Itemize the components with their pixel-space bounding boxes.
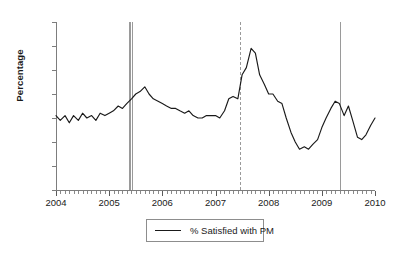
x-tick-minor: [278, 191, 279, 194]
x-tick-label: 2007: [196, 198, 236, 208]
x-tick-minor: [83, 191, 84, 194]
chart-figure: Percentage 010203040506070 2004200520062…: [0, 0, 406, 255]
x-tick-label: 2008: [249, 198, 289, 208]
x-tick-major: [322, 191, 323, 196]
x-tick-minor: [167, 191, 168, 194]
x-tick-minor: [184, 191, 185, 194]
x-tick-minor: [100, 191, 101, 194]
x-tick-minor: [87, 191, 88, 194]
x-tick-minor: [60, 191, 61, 194]
series-plot: [56, 22, 375, 190]
x-tick-minor: [149, 191, 150, 194]
x-tick-minor: [118, 191, 119, 194]
x-tick-minor: [189, 191, 190, 194]
x-tick-minor: [224, 191, 225, 194]
series-line-satisfied-with-pm: [56, 48, 375, 149]
x-tick-minor: [295, 191, 296, 194]
y-axis-title: Percentage: [14, 31, 25, 121]
x-tick-major: [56, 191, 57, 196]
x-tick-label: 2009: [302, 198, 342, 208]
x-tick-minor: [291, 191, 292, 194]
x-tick-minor: [114, 191, 115, 194]
x-tick-major: [216, 191, 217, 196]
x-tick-minor: [207, 191, 208, 194]
x-tick-minor: [171, 191, 172, 194]
x-tick-minor: [326, 191, 327, 194]
x-tick-minor: [74, 191, 75, 194]
x-tick-major: [162, 191, 163, 196]
x-tick-minor: [362, 191, 363, 194]
x-tick-label: 2010: [355, 198, 395, 208]
x-tick-major: [375, 191, 376, 196]
x-tick-minor: [158, 191, 159, 194]
x-tick-minor: [96, 191, 97, 194]
x-tick-major: [109, 191, 110, 196]
x-tick-label: 2004: [36, 198, 76, 208]
x-tick-minor: [371, 191, 372, 194]
x-tick-minor: [220, 191, 221, 194]
x-tick-minor: [238, 191, 239, 194]
legend-line-swatch: [155, 230, 181, 231]
x-tick-minor: [140, 191, 141, 194]
x-tick-minor: [357, 191, 358, 194]
x-tick-minor: [198, 191, 199, 194]
x-tick-minor: [264, 191, 265, 194]
x-tick-minor: [260, 191, 261, 194]
x-tick-minor: [353, 191, 354, 194]
x-tick-minor: [251, 191, 252, 194]
x-tick-minor: [317, 191, 318, 194]
x-tick-minor: [202, 191, 203, 194]
x-tick-minor: [273, 191, 274, 194]
x-tick-minor: [122, 191, 123, 194]
plot-area: 010203040506070 200420052006200720082009…: [56, 22, 375, 190]
x-tick-minor: [229, 191, 230, 194]
x-tick-minor: [348, 191, 349, 194]
x-tick-label: 2006: [142, 198, 182, 208]
x-tick-minor: [211, 191, 212, 194]
x-tick-minor: [247, 191, 248, 194]
x-tick-minor: [344, 191, 345, 194]
x-tick-minor: [127, 191, 128, 194]
x-tick-minor: [300, 191, 301, 194]
x-tick-minor: [313, 191, 314, 194]
x-tick-label: 2005: [89, 198, 129, 208]
x-tick-minor: [193, 191, 194, 194]
x-tick-minor: [180, 191, 181, 194]
x-tick-minor: [335, 191, 336, 194]
x-tick-minor: [145, 191, 146, 194]
x-tick-minor: [176, 191, 177, 194]
x-tick-minor: [153, 191, 154, 194]
legend-label: % Satisfied with PM: [190, 225, 274, 236]
x-tick-minor: [309, 191, 310, 194]
x-tick-minor: [304, 191, 305, 194]
x-tick-minor: [255, 191, 256, 194]
x-tick-minor: [69, 191, 70, 194]
x-tick-minor: [136, 191, 137, 194]
x-tick-major: [269, 191, 270, 196]
x-tick-minor: [286, 191, 287, 194]
legend-box: % Satisfied with PM: [146, 219, 264, 242]
x-tick-minor: [242, 191, 243, 194]
x-tick-minor: [233, 191, 234, 194]
x-tick-minor: [131, 191, 132, 194]
x-tick-minor: [91, 191, 92, 194]
x-tick-minor: [366, 191, 367, 194]
x-tick-minor: [340, 191, 341, 194]
x-tick-minor: [331, 191, 332, 194]
x-tick-minor: [65, 191, 66, 194]
x-tick-minor: [78, 191, 79, 194]
x-tick-minor: [282, 191, 283, 194]
x-tick-minor: [105, 191, 106, 194]
